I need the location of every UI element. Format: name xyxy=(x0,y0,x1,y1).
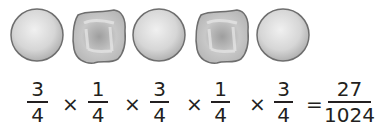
fraction-term: 1 4 xyxy=(88,79,108,126)
denominator: 4 xyxy=(92,105,105,126)
round-pea xyxy=(11,9,63,61)
numerator: 27 xyxy=(337,79,362,100)
wrinkled-pea xyxy=(196,10,248,63)
fraction-term: 1 4 xyxy=(211,79,230,126)
multiply-sign: × xyxy=(186,92,203,116)
denominator: 4 xyxy=(153,105,166,126)
numerator: 1 xyxy=(214,79,227,100)
fraction-term: 3 4 xyxy=(27,79,48,126)
wrinkled-pea xyxy=(73,10,125,63)
denominator: 4 xyxy=(214,105,227,126)
denominator: 4 xyxy=(277,105,290,126)
result-fraction: 27 1024 xyxy=(328,79,371,126)
numerator: 3 xyxy=(31,79,44,100)
round-pea xyxy=(133,9,185,61)
equals-sign: = xyxy=(306,92,323,116)
fraction-term: 3 4 xyxy=(150,79,169,126)
numerator: 3 xyxy=(153,79,166,100)
multiply-sign: × xyxy=(124,92,141,116)
multiply-sign: × xyxy=(249,92,266,116)
multiply-sign: × xyxy=(62,92,79,116)
pea-phenotype-row xyxy=(0,0,377,72)
numerator: 1 xyxy=(92,79,105,100)
denominator: 1024 xyxy=(324,105,375,126)
round-pea xyxy=(257,9,309,61)
numerator: 3 xyxy=(277,79,290,100)
denominator: 4 xyxy=(31,105,44,126)
fraction-term: 3 4 xyxy=(274,79,293,126)
